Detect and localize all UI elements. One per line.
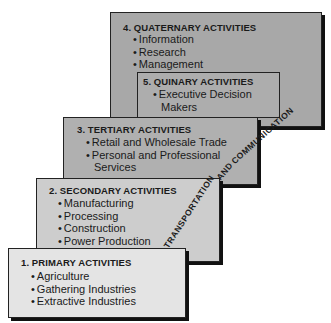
quinary-title: 5. QUINARY ACTIVITIES (143, 76, 254, 87)
list-item: Construction (58, 222, 151, 235)
secondary-items: Manufacturing Processing Construction Po… (58, 197, 151, 247)
list-item-continuation: Makers (153, 101, 252, 114)
list-item: Processing (58, 210, 151, 223)
tertiary-items: Retail and Wholesale Trade Personal and … (86, 136, 227, 174)
list-item: Management (133, 58, 203, 71)
primary-activities-box: 1. PRIMARY ACTIVITIES Agriculture Gather… (8, 248, 186, 318)
list-item: Power Production (58, 235, 151, 248)
list-item: Manufacturing (58, 197, 151, 210)
quaternary-items: Information Research Management (133, 33, 203, 71)
list-item: Executive Decision (153, 88, 252, 101)
list-item: Information (133, 33, 203, 46)
list-item: Personal and Professional (86, 149, 227, 162)
quinary-items: Executive Decision Makers (153, 88, 252, 113)
list-item: Gathering Industries (31, 283, 136, 296)
secondary-title: 2. SECONDARY ACTIVITIES (49, 185, 177, 196)
tertiary-title: 3. TERTIARY ACTIVITIES (77, 124, 191, 135)
tertiary-activities-box: 3. TERTIARY ACTIVITIES Retail and Wholes… (63, 117, 258, 185)
primary-items: Agriculture Gathering Industries Extract… (31, 270, 136, 308)
list-item: Agriculture (31, 270, 136, 283)
list-item-continuation: Services (86, 161, 227, 174)
list-item: Extractive Industries (31, 295, 136, 308)
quinary-activities-box: 5. QUINARY ACTIVITIES Executive Decision… (137, 72, 280, 118)
quaternary-title: 4. QUATERNARY ACTIVITIES (123, 22, 256, 33)
list-item: Retail and Wholesale Trade (86, 136, 227, 149)
primary-title: 1. PRIMARY ACTIVITIES (21, 257, 132, 268)
list-item: Research (133, 46, 203, 59)
